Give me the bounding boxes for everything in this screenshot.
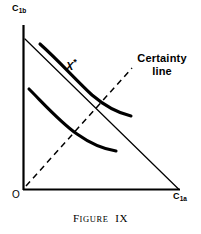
y-axis-label: C1b: [12, 4, 26, 13]
indifference-curve-lower: [29, 89, 116, 151]
certainty-line-dashed: [26, 68, 132, 186]
certainty-line-label-line2: line: [128, 65, 196, 78]
y-axis-label-base: C: [12, 3, 19, 13]
optimum-point-label: X*: [66, 61, 77, 72]
origin-label: O: [12, 190, 20, 200]
figure-caption-initial: F: [73, 212, 80, 224]
optimum-point-asterisk: *: [73, 57, 77, 67]
y-axis-label-subscript: 1b: [19, 7, 27, 14]
certainty-line-label-line1: Certainty: [137, 52, 186, 64]
figure-container: C1b C1a O X* Certaintyline FIGURE IX: [0, 0, 201, 234]
certainty-line-label: Certaintyline: [128, 52, 196, 78]
figure-caption-number: IX: [115, 212, 128, 224]
x-axis-label-subscript: 1a: [180, 195, 187, 202]
x-axis-label-base: C: [173, 191, 180, 201]
figure-drawing: [0, 0, 201, 234]
figure-caption: FIGURE IX: [0, 212, 201, 226]
indifference-curve-upper: [40, 44, 131, 116]
figure-caption-word: IGURE: [80, 214, 109, 224]
x-axis-label: C1a: [173, 192, 187, 201]
